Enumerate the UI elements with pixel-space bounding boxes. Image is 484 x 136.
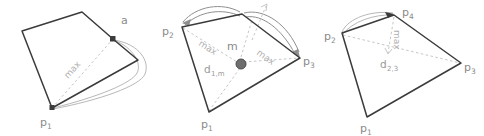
panel-3-label-distance: d [380, 58, 387, 70]
panel-2-label-p2: p [162, 25, 169, 38]
panel-3-label-max: max [392, 30, 402, 50]
panel-3-label-p2: p [324, 30, 331, 43]
panel-2-label-distance: d [204, 63, 211, 75]
panel-2-label-distance-subscript: 1,m [211, 70, 225, 78]
diagram-panel-2: p 2 p 3 p 1 m max max d 1,m [160, 0, 322, 136]
panel-1-svg: a p 1 max [0, 0, 160, 136]
diagram-panel-1: a p 1 max [0, 0, 160, 136]
panel-2-centroid-marker [236, 59, 246, 69]
panel-3-svg: p 2 p 4 p 3 p 1 max d 2,3 [322, 0, 484, 136]
panel-2-label-p1: p [201, 118, 208, 131]
panel-1-label-p1: p [40, 116, 47, 129]
panel-2-svg: p 2 p 3 p 1 m max max d 1,m [160, 0, 322, 136]
panel-3-label-p3-subscript: 3 [471, 67, 476, 76]
panel-3-label-p4: p [402, 6, 409, 19]
panel-2-label-p2-subscript: 2 [169, 31, 174, 40]
figure-container: a p 1 max [0, 0, 484, 136]
panel-1-vertex-a-marker [110, 36, 116, 42]
panel-2-label-p1-subscript: 1 [208, 124, 213, 133]
panel-2-label-m: m [227, 40, 238, 53]
panel-3-label-p1: p [360, 122, 367, 135]
panel-1-label-a: a [121, 14, 128, 27]
panel-1-vertex-p1-marker [50, 105, 55, 110]
panel-3-label-distance-subscript: 2,3 [387, 65, 398, 73]
panel-3-label-p1-subscript: 1 [367, 128, 372, 136]
panel-3-label-p4-subscript: 4 [409, 12, 414, 21]
panel-3-label-p2-subscript: 2 [331, 36, 336, 45]
panel-3-label-p3: p [464, 61, 471, 74]
panel-2-label-p3-subscript: 3 [310, 61, 315, 70]
diagram-panel-3: p 2 p 4 p 3 p 1 max d 2,3 [322, 0, 484, 136]
panel-2-label-p3: p [303, 55, 310, 68]
panel-1-label-p1-subscript: 1 [47, 122, 52, 131]
